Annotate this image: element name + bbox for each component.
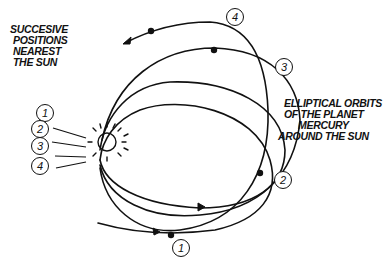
orbits-label: ELLIPTICAL ORBITS OF THE PLANET MERCURY … — [284, 98, 382, 142]
arrow-icon — [123, 37, 131, 44]
label-line: AROUND THE SUN — [278, 131, 382, 142]
sun-icon — [88, 123, 128, 161]
orbit-marker-2: 2 — [274, 171, 292, 189]
perihelion-marker-3: 3 — [31, 137, 49, 155]
arrow-icon — [198, 203, 205, 211]
label-line: THE SUN — [10, 57, 68, 68]
positions-label: SUCCESIVE POSITIONS NEAREST THE SUN — [10, 24, 68, 68]
perihelion-marker-2: 2 — [31, 120, 49, 138]
orbit-marker-4: 4 — [226, 8, 244, 26]
orbit-marker-1: 1 — [172, 239, 190, 257]
orbit-marker-3: 3 — [275, 58, 293, 76]
planet-dot-icon — [148, 28, 154, 34]
planet-dot-icon — [211, 47, 217, 53]
perihelion-marker-4: 4 — [31, 157, 49, 175]
planet-dot-icon — [168, 232, 174, 238]
orbit-2 — [100, 82, 285, 208]
planet-dot-icon — [257, 170, 263, 176]
